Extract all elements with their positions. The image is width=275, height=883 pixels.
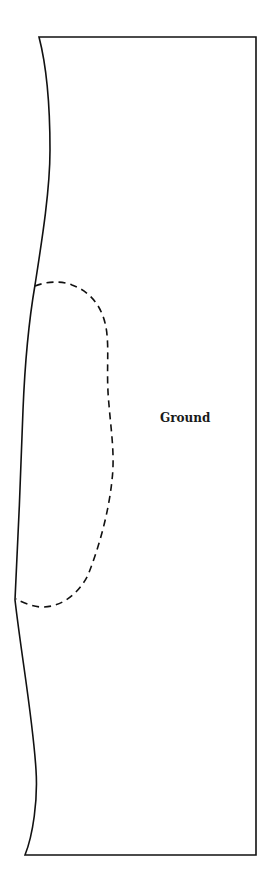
ground-label: Ground [160,411,211,425]
dashed-zone-outline [16,282,113,607]
ground-outline [15,37,256,855]
ground-diagram: Ground [0,0,275,883]
